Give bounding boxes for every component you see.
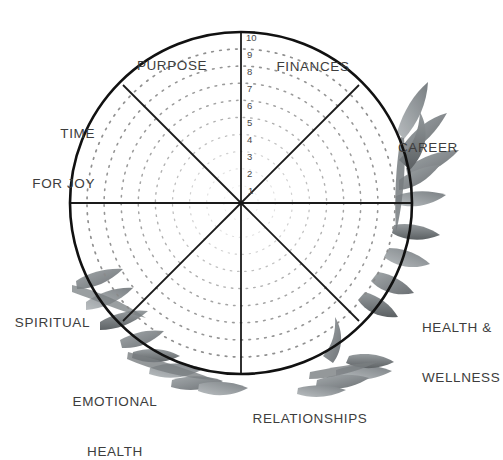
sector-label-career: CAREER [398,106,498,190]
sector-label-time-for-joy: TIME FOR JOY [20,92,95,227]
scale-number-8: 8 [247,67,252,77]
sector-label-relationships: RELATIONSHIPS [245,377,375,460]
sector-label-finances: FINANCES [258,25,368,109]
sector-label-emotional-health-line2: HEALTH [60,444,170,460]
sector-label-emotional-health-line1: EMOTIONAL [60,394,170,411]
scale-number-6: 6 [247,101,252,111]
scale-number-1: 1 [248,186,253,196]
scale-number-9: 9 [247,50,252,60]
scale-number-3: 3 [247,152,252,162]
sector-label-time-for-joy-line2: FOR JOY [20,176,95,193]
spoke-diagonal-se [241,203,359,321]
scale-number-7: 7 [247,84,252,94]
sector-label-health-wellness: HEALTH & WELLNESS [422,286,503,421]
spoke-diagonal-sw [123,203,241,321]
scale-number-4: 4 [247,135,252,145]
sector-label-career-line1: CAREER [398,140,498,157]
sector-label-time-for-joy-line1: TIME [20,126,95,143]
sector-label-health-wellness-line1: HEALTH & [422,320,503,337]
scale-number-5: 5 [247,118,252,128]
sector-label-purpose-line1: PURPOSE [112,58,232,75]
sector-label-relationships-line1: RELATIONSHIPS [245,411,375,428]
sector-label-health-wellness-line2: WELLNESS [422,370,503,387]
sector-label-emotional-health: EMOTIONAL HEALTH [60,360,170,460]
sector-label-spiritual-line1: SPIRITUAL [8,315,90,332]
scale-number-2: 2 [247,169,252,179]
sector-label-finances-line1: FINANCES [258,59,368,76]
sector-label-spiritual: SPIRITUAL [8,281,90,365]
scale-number-10: 10 [246,33,257,43]
sector-label-purpose: PURPOSE [112,24,232,108]
